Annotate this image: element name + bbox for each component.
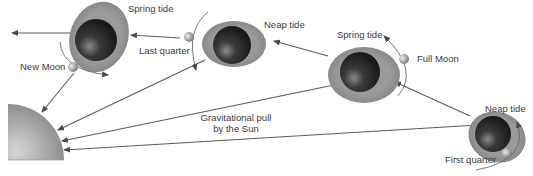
- moon-label: Last quarter: [139, 45, 190, 56]
- gravity-label-line2: by the Sun: [213, 123, 258, 134]
- moon-icon: [502, 148, 512, 158]
- moon-icon: [399, 54, 409, 64]
- moon-icon: [68, 62, 78, 72]
- sun: [8, 104, 64, 160]
- earth-icon: [213, 26, 251, 64]
- tide-label: Spring tide: [337, 29, 382, 40]
- gravity-arrow-last-quarter: [58, 60, 205, 130]
- moon-icon: [184, 32, 194, 42]
- gravity-arrow-first-quarter: [64, 125, 478, 150]
- tide-label: Neap tide: [485, 103, 526, 114]
- position-first-quarter: First quarter Neap tide: [445, 103, 533, 170]
- position-new-moon: New Moon Spring tide: [20, 0, 173, 81]
- direction-arrow-4: [395, 82, 470, 116]
- earth-icon: [75, 19, 117, 61]
- gravity-arrows: [42, 60, 478, 150]
- tide-label: Neap tide: [264, 19, 305, 30]
- sun-icon: [8, 104, 64, 160]
- position-last-quarter: Last quarter Neap tide: [139, 12, 305, 70]
- tides-diagram: New Moon Spring tide Last quarter Neap t…: [0, 0, 533, 176]
- position-full-moon: Full Moon Spring tide: [328, 29, 459, 103]
- direction-arrow-3: [274, 41, 328, 56]
- earth-icon: [475, 116, 511, 152]
- gravity-arrow-new-moon: [42, 73, 74, 112]
- gravity-arrow-full-moon: [62, 85, 334, 141]
- tide-label: Spring tide: [128, 3, 173, 14]
- direction-arrow-2: [131, 35, 180, 38]
- moon-label: First quarter: [445, 154, 496, 165]
- earth-icon: [340, 52, 380, 92]
- moon-label: New Moon: [20, 61, 65, 72]
- moon-label: Full Moon: [417, 53, 459, 64]
- gravity-label-line1: Gravitational pull: [201, 112, 272, 123]
